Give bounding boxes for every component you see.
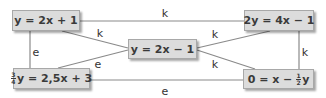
edge-top-right-center (197, 31, 270, 48)
node-bottom-left-text: y = 2,5x + 3 (17, 72, 92, 85)
edge-label-top: k (162, 8, 168, 19)
node-bottom-right: 0 = x − 1 2 y (243, 69, 314, 89)
edge-label-bottom-left-center: e (95, 59, 102, 70)
node-bottom-right-text-before: 0 = x − (248, 73, 297, 86)
node-top-right: 2y = 4x − 1 (244, 10, 314, 31)
node-center-text: y = 2x − 1 (131, 43, 194, 56)
fraction-three-quarters: 3 4 (11, 72, 16, 85)
edge-label-left: e (33, 47, 40, 58)
edge-bottom-right-center (197, 50, 255, 69)
node-center: y = 2x − 1 (128, 39, 197, 59)
node-top-left-text: y = 2x + 1 (14, 14, 77, 27)
edge-label-top-right-center: k (212, 29, 218, 40)
fraction-one-half: 1 2 (296, 73, 301, 86)
edge-label-top-left-center: k (97, 28, 103, 39)
edge-label-bottom-right-center: k (212, 59, 218, 70)
node-bottom-left: 3 4 y = 2,5x + 3 (13, 68, 90, 89)
fraction-denominator: 4 (11, 79, 15, 85)
node-top-left: y = 2x + 1 (12, 10, 80, 31)
fraction-denominator: 2 (297, 80, 301, 86)
edge-label-bottom: e (162, 86, 169, 97)
edge-bottom-left-center (58, 50, 128, 68)
edge-label-right: k (302, 47, 308, 58)
node-top-right-text: 2y = 4x − 1 (244, 14, 315, 27)
edge-top-left-center (62, 31, 128, 48)
node-bottom-right-text-after: y (302, 73, 309, 86)
